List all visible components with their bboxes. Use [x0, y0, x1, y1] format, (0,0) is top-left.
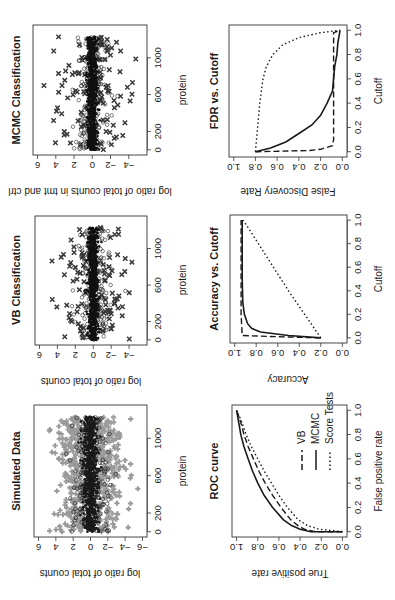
x-axis: 0.00.20.40.60.81.0 — [347, 214, 363, 345]
y-tick-label: 0.2 — [314, 162, 327, 173]
plot-frame — [229, 25, 347, 157]
x-tick-label: 0.2 — [352, 121, 363, 134]
y-tick-label: 1.0 — [227, 162, 240, 173]
legend-label: VB — [296, 430, 307, 444]
y-axis: 0.00.20.40.60.81.0 — [227, 157, 349, 173]
plot-area — [255, 30, 340, 151]
plot-area — [241, 220, 321, 338]
y-tick-label: 4 — [55, 350, 60, 361]
y-tick-label: 1.0 — [228, 348, 241, 359]
x-tick-label: 0.6 — [352, 452, 363, 465]
x-tick-label: 0.8 — [352, 48, 363, 61]
y-tick-label: 0.6 — [271, 348, 284, 359]
panel-roc-curve: ROC curve False positive rate True posit… — [208, 392, 384, 579]
y-tick-label: 0.8 — [250, 348, 263, 359]
y-tick-label: 6 — [37, 350, 42, 361]
x-tick-label: 0.6 — [352, 261, 363, 274]
x-axis-label: Cutoff — [373, 78, 384, 105]
y-tick-label: 0.0 — [336, 162, 349, 173]
panel-title: Accuracy vs. Cutoff — [208, 227, 220, 331]
x-axis-label: Cutoff — [373, 266, 384, 293]
x-axis: 02006001000 — [147, 238, 163, 343]
panel-title: FDR vs. Cutoff — [208, 52, 220, 129]
y-axis: −6−4−20246 — [36, 537, 148, 553]
x-axis-label: protein — [177, 265, 188, 296]
y-axis-label: log ratio of total counts in tmt and ctr… — [8, 186, 171, 197]
y-tick-label: 0 — [91, 350, 96, 361]
x-axis: 0.00.20.40.60.81.0 — [347, 404, 363, 539]
plot-area — [42, 35, 138, 152]
x-tick-label: 0.0 — [352, 525, 363, 538]
y-tick-label: 0.0 — [336, 348, 349, 359]
x-axis-label: protein — [177, 456, 188, 487]
x-tick-label: 600 — [152, 277, 163, 293]
y-tick-label: 0.0 — [336, 542, 349, 553]
legend: VBMCMCScore Tests — [296, 392, 335, 470]
panel-title: MCMC Classification — [10, 35, 22, 144]
x-tick-label: 0.4 — [352, 97, 363, 110]
panel-mcmc-classification: MCMC Classification protein log ratio of… — [8, 25, 188, 197]
y-tick-label: 2 — [73, 350, 78, 361]
y-axis-label: False Discovery Rate — [240, 186, 335, 197]
x-tick-label: 0.0 — [352, 145, 363, 158]
y-tick-label: 4 — [53, 542, 58, 553]
x-axis: 02006001000 — [147, 47, 163, 152]
x-tick-label: 600 — [152, 87, 163, 103]
x-tick-label: 200 — [152, 314, 163, 330]
y-tick-label: 2 — [71, 542, 76, 553]
series-core — [84, 226, 103, 341]
y-axis-label: Accuracy — [267, 374, 308, 385]
y-tick-label: −4 — [124, 350, 135, 361]
x-tick-label: 0.2 — [352, 308, 363, 321]
plot-area — [50, 225, 134, 341]
y-axis: 0.00.20.40.60.81.0 — [230, 537, 349, 553]
x-tick-label: 0.6 — [352, 72, 363, 85]
x-axis-label: False positive rate — [373, 430, 384, 512]
y-tick-label: 4 — [53, 160, 58, 171]
panel-vb-classification: VB Classification protein log ratio of t… — [10, 216, 188, 387]
x-tick-label: 600 — [152, 468, 163, 484]
y-axis: −4−20246 — [35, 155, 134, 171]
y-tick-label: −4 — [120, 542, 131, 553]
x-tick-label: 0.8 — [352, 428, 363, 441]
figure-canvas: Simulated Data protein log ratio of tota… — [0, 0, 395, 600]
x-axis: 02006001000 — [147, 428, 163, 535]
x-tick-label: 0 — [152, 147, 163, 152]
x-axis-label: protein — [177, 75, 188, 106]
x-tick-label: 1.0 — [352, 24, 363, 37]
panel-simulated: Simulated Data protein log ratio of tota… — [10, 405, 188, 579]
y-tick-label: 0 — [88, 542, 93, 553]
y-tick-label: −2 — [102, 542, 113, 553]
y-tick-label: 0.4 — [293, 348, 306, 359]
x-axis: 0.00.20.40.60.81.0 — [347, 24, 363, 159]
y-tick-label: 1.0 — [230, 542, 243, 553]
x-tick-label: 200 — [152, 123, 163, 139]
y-tick-label: −6 — [137, 542, 148, 553]
y-tick-label: 0.2 — [314, 348, 327, 359]
x-tick-label: 0.8 — [352, 237, 363, 250]
line-mcmc — [255, 30, 340, 151]
y-axis: −4−20246 — [37, 345, 135, 361]
legend-label: MCMC — [310, 413, 321, 444]
x-tick-label: 0 — [152, 337, 163, 342]
panel-title: Simulated Data — [10, 430, 22, 510]
x-tick-label: 1000 — [152, 47, 163, 68]
y-tick-label: 6 — [36, 542, 41, 553]
y-tick-label: 0.6 — [272, 542, 285, 553]
panel-title: VB Classification — [10, 235, 22, 325]
y-tick-label: 0.6 — [271, 162, 284, 173]
x-tick-label: 1000 — [152, 428, 163, 449]
x-tick-label: 1.0 — [352, 404, 363, 417]
x-tick-label: 0.4 — [352, 284, 363, 297]
y-tick-label: 0 — [90, 160, 95, 171]
y-tick-label: 0.4 — [292, 162, 305, 173]
figure: Simulated Data protein log ratio of tota… — [0, 0, 395, 600]
x-tick-label: 0.4 — [352, 477, 363, 490]
y-tick-label: −2 — [105, 160, 116, 171]
y-tick-label: 0.8 — [249, 162, 262, 173]
x-tick-label: 0 — [152, 529, 163, 534]
y-tick-label: 0.8 — [251, 542, 264, 553]
x-tick-label: 1.0 — [352, 214, 363, 227]
y-axis-label: log ratio of total counts — [40, 568, 141, 579]
y-tick-label: −2 — [106, 350, 117, 361]
